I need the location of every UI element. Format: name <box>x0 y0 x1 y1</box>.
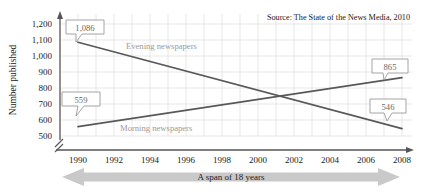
y-tick-label: 900 <box>39 67 53 77</box>
y-tick-label: 1,200 <box>32 19 53 29</box>
x-tick-label: 2006 <box>357 155 376 165</box>
y-axis-title: Number published <box>8 45 18 116</box>
callout-label: 865 <box>384 62 397 72</box>
callout-evening-start: 1,086 <box>66 20 104 42</box>
callout-label: 546 <box>382 102 396 112</box>
x-tick-labels: 1990 1992 1994 1996 1998 2000 2002 2004 … <box>69 155 412 165</box>
line-chart: 1,200 1,100 1,000 900 800 700 600 500 Nu… <box>0 0 423 192</box>
callout-evening-end: 546 <box>370 99 406 121</box>
y-tick-label: 1,100 <box>32 35 53 45</box>
chart-container: 1,200 1,100 1,000 900 800 700 600 500 Nu… <box>0 0 423 192</box>
x-axis <box>56 147 414 153</box>
callout-morning-end: 865 <box>372 59 408 80</box>
x-tick-label: 2002 <box>285 155 303 165</box>
series-label-morning: Morning newspapers <box>120 123 193 133</box>
y-tick-label: 800 <box>39 83 53 93</box>
x-tick-label: 2000 <box>249 155 268 165</box>
x-tick-label: 1998 <box>213 155 232 165</box>
y-tick-label: 600 <box>39 115 53 125</box>
x-tick-label: 1996 <box>177 155 196 165</box>
x-tick-label: 1992 <box>105 155 123 165</box>
span-arrow-label: A span of 18 years <box>198 172 265 182</box>
x-tick-label: 1990 <box>69 155 88 165</box>
series-label-evening: Evening newspapers <box>126 41 198 51</box>
source-annotation: Source: The State of the News Media, 201… <box>267 13 410 22</box>
y-tick-labels: 1,200 1,100 1,000 900 800 700 600 500 <box>32 19 53 141</box>
callout-morning-start: 559 <box>62 92 100 116</box>
y-tick-label: 1,000 <box>32 51 53 61</box>
x-tick-label: 1994 <box>141 155 160 165</box>
y-tick-label: 500 <box>39 131 53 141</box>
callout-label: 559 <box>75 95 88 105</box>
x-tick-label: 2008 <box>393 155 412 165</box>
x-tick-label: 2004 <box>321 155 340 165</box>
y-axis <box>55 11 63 152</box>
y-tick-label: 700 <box>39 99 53 109</box>
callout-label: 1,086 <box>75 23 95 33</box>
